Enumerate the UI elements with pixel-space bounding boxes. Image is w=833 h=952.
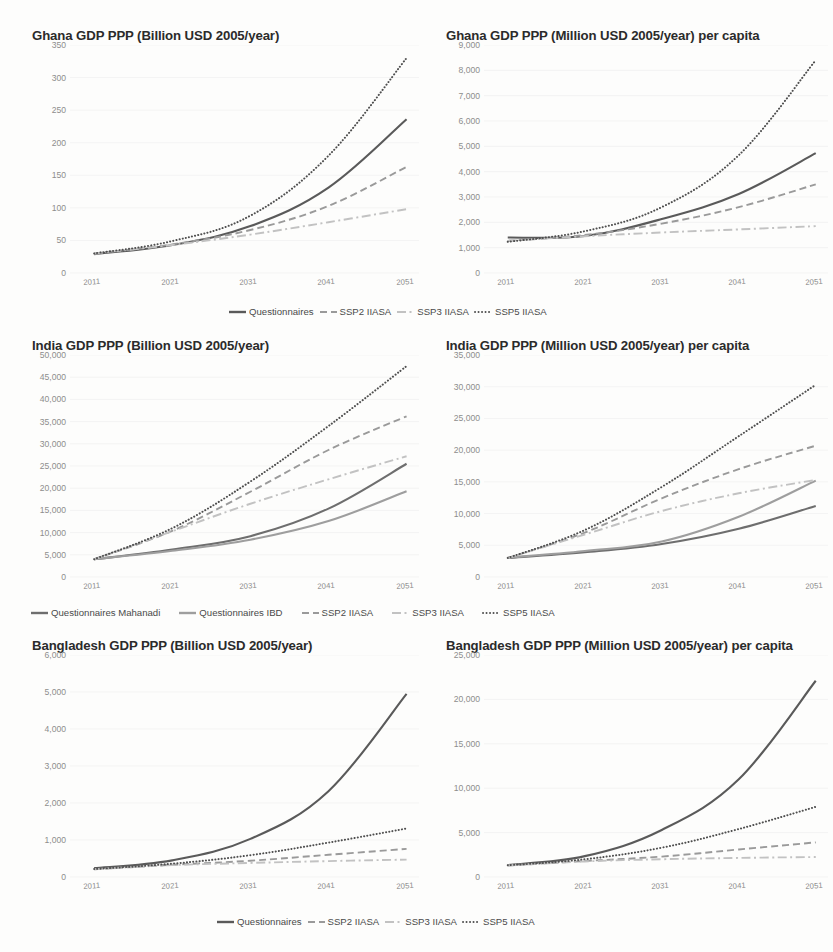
legend-item[interactable]: Questionnaires IBD (178, 607, 282, 618)
y-axis-tick-label: 0 (24, 268, 66, 278)
x-axis-tick-label: 2051 (805, 581, 823, 591)
y-axis-tick-label: 0 (438, 872, 480, 882)
plot-area: 01,0002,0003,0004,0005,0006,000201120212… (18, 655, 419, 903)
plot-canvas (18, 655, 419, 903)
x-axis-tick-label: 2031 (239, 277, 257, 287)
x-axis-tick-label: 2041 (317, 581, 335, 591)
y-axis-tick-label: 5,000 (438, 828, 480, 838)
y-axis-tick-label: 5,000 (24, 687, 66, 697)
y-axis-tick-label: 20,000 (24, 483, 66, 493)
x-axis-tick-label: 2011 (83, 277, 100, 287)
y-axis-tick-label: 5,000 (24, 550, 66, 560)
x-axis-tick-label: 2011 (497, 277, 514, 287)
y-axis-tick-label: 0 (438, 572, 480, 582)
x-axis-tick-label: 2051 (805, 277, 823, 287)
chart-title: Ghana GDP PPP (Million USD 2005/year) pe… (446, 28, 828, 43)
legend-row-3: QuestionnairesSSP2 IIASASSP3 IIASASSP5 I… (216, 916, 540, 927)
y-axis-tick-label: 250 (24, 105, 66, 115)
legend-row-2: Questionnaires MahanadiQuestionnaires IB… (30, 607, 573, 618)
chart-ghana-percapita: Ghana GDP PPP (Million USD 2005/year) pe… (432, 28, 828, 299)
plot-area: 0501001502002503003502011202120312041205… (18, 45, 419, 299)
legend-item[interactable]: SSP2 IIASA (307, 916, 380, 927)
y-axis-tick-label: 6,000 (438, 116, 480, 126)
legend-swatch-icon (228, 307, 247, 316)
legend-item[interactable]: SSP3 IIASA (384, 916, 457, 927)
series-line (94, 366, 406, 559)
x-axis-tick-label: 2011 (497, 581, 514, 591)
chart-title: India GDP PPP (Million USD 2005/year) pe… (446, 338, 828, 353)
plot-area: 01,0002,0003,0004,0005,0006,0007,0008,00… (432, 45, 828, 299)
x-axis-tick-label: 2021 (161, 581, 179, 591)
y-axis-tick-label: 25,000 (438, 413, 480, 423)
chart-india-percapita: India GDP PPP (Million USD 2005/year) pe… (432, 338, 828, 603)
legend-item[interactable]: SSP3 IIASA (396, 306, 469, 317)
y-axis-tick-label: 25,000 (24, 461, 66, 471)
y-axis-tick-label: 30,000 (24, 439, 66, 449)
x-axis-tick-label: 2031 (239, 581, 257, 591)
y-axis-tick-label: 20,000 (438, 694, 480, 704)
x-axis-tick-label: 2031 (651, 581, 669, 591)
series-line (508, 60, 816, 242)
y-axis-tick-label: 10,000 (438, 509, 480, 519)
legend-item[interactable]: SSP2 IIASA (301, 607, 374, 618)
legend-row-1: QuestionnairesSSP2 IIASASSP3 IIASASSP5 I… (228, 306, 552, 317)
series-line (94, 694, 406, 868)
y-axis-tick-label: 2,000 (438, 217, 480, 227)
plot-area: 05,00010,00015,00020,00025,0002011202120… (432, 655, 828, 903)
x-axis-tick-label: 2021 (574, 881, 592, 891)
x-axis-tick-label: 2031 (651, 277, 669, 287)
x-axis-tick-label: 2051 (396, 277, 414, 287)
legend-label: SSP5 IIASA (483, 916, 535, 927)
legend-label: SSP5 IIASA (495, 306, 547, 317)
legend-item[interactable]: Questionnaires (228, 306, 314, 317)
legend-item[interactable]: SSP5 IIASA (474, 306, 547, 317)
legend-swatch-icon (307, 917, 326, 926)
y-axis-tick-label: 5,000 (438, 540, 480, 550)
x-axis-tick-label: 2021 (574, 277, 592, 287)
y-axis-tick-label: 1,000 (24, 835, 66, 845)
series-line (508, 184, 816, 241)
y-axis-tick-label: 1,000 (438, 243, 480, 253)
legend-label: SSP3 IIASA (417, 306, 469, 317)
y-axis-tick-label: 100 (24, 203, 66, 213)
legend-swatch-icon (474, 307, 493, 316)
legend-item[interactable]: Questionnaires Mahanadi (30, 607, 160, 618)
legend-item[interactable]: SSP2 IIASA (319, 306, 392, 317)
legend-item[interactable]: SSP5 IIASA (462, 916, 535, 927)
y-axis-tick-label: 5,000 (438, 141, 480, 151)
chart-bangladesh-percapita: Bangladesh GDP PPP (Million USD 2005/yea… (432, 638, 828, 903)
series-line (94, 829, 406, 870)
x-axis-tick-label: 2051 (396, 581, 414, 591)
series-line (508, 842, 816, 865)
series-line (508, 481, 816, 558)
legend-swatch-icon (30, 608, 49, 617)
chart-title: Bangladesh GDP PPP (Million USD 2005/yea… (446, 638, 828, 653)
x-axis-tick-label: 2011 (83, 881, 100, 891)
plot-area: 05,00010,00015,00020,00025,00030,00035,0… (18, 355, 419, 603)
legend-label: SSP3 IIASA (405, 916, 457, 927)
legend-swatch-icon (391, 608, 410, 617)
y-axis-tick-label: 4,000 (24, 724, 66, 734)
legend-item[interactable]: Questionnaires (216, 916, 302, 927)
y-axis-tick-label: 150 (24, 170, 66, 180)
plot-canvas (432, 655, 828, 903)
y-axis-tick-label: 200 (24, 138, 66, 148)
legend-label: Questionnaires (249, 306, 314, 317)
y-axis-tick-label: 0 (438, 268, 480, 278)
legend-swatch-icon (178, 608, 197, 617)
series-line (94, 464, 406, 559)
y-axis-tick-label: 35,000 (438, 350, 480, 360)
y-axis-tick-label: 4,000 (438, 167, 480, 177)
plot-canvas (18, 355, 419, 603)
y-axis-tick-label: 15,000 (24, 505, 66, 515)
legend-item[interactable]: SSP5 IIASA (482, 607, 555, 618)
y-axis-tick-label: 40,000 (24, 394, 66, 404)
x-axis-tick-label: 2021 (574, 581, 592, 591)
x-axis-tick-label: 2041 (317, 881, 335, 891)
x-axis-tick-label: 2041 (317, 277, 335, 287)
legend-label: SSP3 IIASA (412, 607, 464, 618)
y-axis-tick-label: 30,000 (438, 382, 480, 392)
x-axis-tick-label: 2031 (239, 881, 257, 891)
legend-item[interactable]: SSP3 IIASA (391, 607, 464, 618)
legend-swatch-icon (384, 917, 403, 926)
